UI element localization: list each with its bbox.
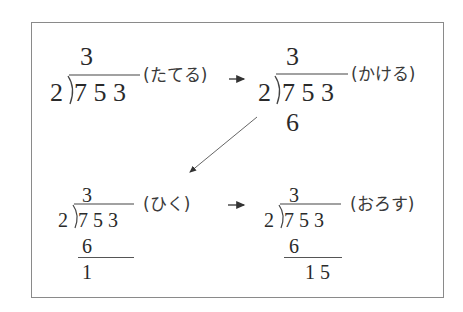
arrows-layer [0, 0, 463, 312]
arrow-diagonal-icon [190, 117, 257, 172]
